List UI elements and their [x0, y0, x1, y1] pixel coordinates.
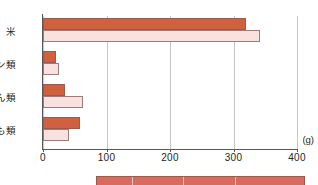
gridline-400 [297, 16, 298, 149]
next-chart-gridline [235, 177, 236, 185]
next-chart-gridline [183, 177, 184, 185]
chart-row: いも類 [43, 116, 297, 149]
x-tick-label-400: 400 [288, 153, 306, 163]
x-tick-label-300: 300 [225, 153, 243, 163]
bar-series-a-1 [43, 51, 56, 63]
bar-series-b-0 [43, 30, 260, 42]
next-chart-gridline [132, 177, 133, 185]
y-axis-line [42, 14, 43, 150]
bar-series-b-3 [43, 129, 69, 141]
chart-row: めん類 [43, 83, 297, 116]
category-label-1: パン類 [0, 60, 16, 70]
bar-series-a-2 [43, 84, 65, 96]
chart-row: パン類 [43, 50, 297, 83]
chart-row: 米 [43, 17, 297, 50]
bar-series-a-3 [43, 117, 80, 129]
x-axis-unit-label: (g) [302, 135, 314, 145]
horizontal-bar-chart: 米 パン類 めん類 いも類 0 100 200 300 [0, 0, 318, 185]
bar-series-b-1 [43, 63, 59, 75]
next-chart-clipped-strip [96, 176, 305, 185]
category-label-3: いも類 [0, 126, 16, 136]
x-tick-label-0: 0 [40, 153, 46, 163]
x-tick-label-200: 200 [161, 153, 179, 163]
x-tick-label-100: 100 [98, 153, 116, 163]
bar-series-a-0 [43, 18, 246, 30]
plot-area: 米 パン類 めん類 いも類 [43, 16, 297, 148]
category-label-2: めん類 [0, 93, 16, 103]
category-label-0: 米 [0, 27, 16, 37]
bar-series-b-2 [43, 96, 83, 108]
